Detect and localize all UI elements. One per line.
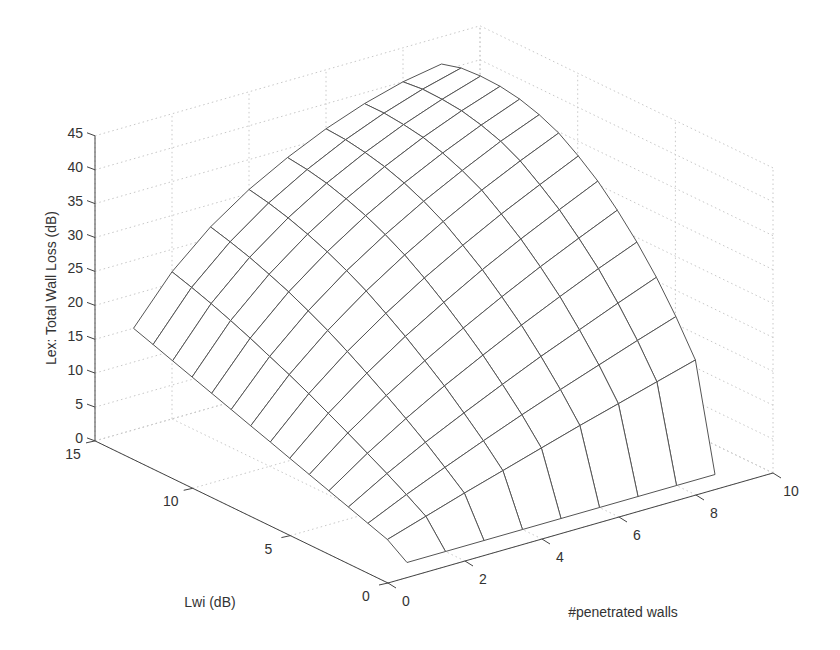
z-tick	[87, 370, 95, 373]
z-tick-label: 0	[75, 430, 83, 446]
y-tick-label: 10	[163, 493, 179, 509]
z-tick-label: 30	[67, 227, 83, 243]
x-tick	[465, 561, 473, 566]
surface-mesh	[134, 64, 716, 563]
z-tick	[87, 336, 95, 339]
z-tick	[87, 133, 95, 136]
z-tick	[87, 167, 95, 170]
x-tick-label: 8	[710, 505, 718, 521]
z-tick	[87, 201, 95, 204]
y-tick	[86, 441, 95, 443]
z-tick	[87, 302, 95, 305]
x-axis-label: #penetrated walls	[568, 604, 678, 620]
z-tick-label: 25	[67, 260, 83, 276]
x-tick	[773, 473, 781, 478]
y-tick	[379, 583, 388, 585]
x-tick-label: 2	[479, 571, 487, 587]
x-tick-label: 6	[633, 527, 641, 543]
z-tick-label: 10	[67, 362, 83, 378]
z-tick	[87, 404, 95, 407]
x-tick-label: 10	[783, 483, 799, 499]
x-tick	[696, 495, 704, 500]
x-tick	[542, 539, 550, 544]
y-tick-label: 5	[265, 541, 273, 557]
y-tick	[281, 536, 290, 538]
y-axis-label: Lwi (dB)	[184, 594, 235, 610]
z-tick-label: 5	[75, 396, 83, 412]
z-tick-label: 45	[67, 125, 83, 141]
z-tick-label: 15	[67, 328, 83, 344]
z-tick-label: 20	[67, 294, 83, 310]
z-tick-label: 40	[67, 159, 83, 175]
x-tick-label: 4	[556, 549, 564, 565]
z-tick	[87, 268, 95, 271]
z-axis-label: Lex: Total Wall Loss (dB)	[43, 211, 59, 365]
z-tick-label: 35	[67, 193, 83, 209]
surface-plot: 0510152025303540450510150246810 Lex: Tot…	[0, 0, 840, 650]
x-tick-label: 0	[402, 593, 410, 609]
x-tick	[388, 583, 396, 588]
y-tick	[184, 488, 193, 490]
y-tick-label: 15	[65, 446, 81, 462]
y-tick-label: 0	[362, 588, 370, 604]
z-tick	[87, 235, 95, 238]
x-tick	[619, 517, 627, 522]
z-tick	[87, 438, 95, 441]
